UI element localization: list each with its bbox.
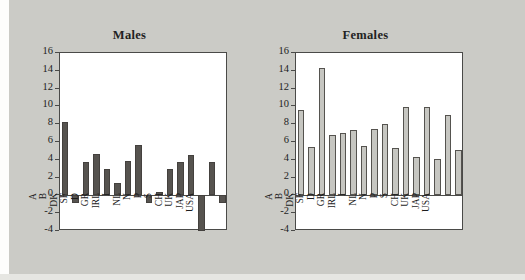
bar-s [413,157,420,195]
bar-i [371,129,378,196]
bar-sf [93,154,100,196]
x-tick-label-text: B [274,193,284,233]
x-tick-label-text: CH [154,193,164,233]
x-tick-label-text: SF [59,193,69,233]
bar-n [392,148,399,195]
bar-gr [350,130,357,196]
x-tick-label-text: S [379,193,389,233]
y-tick-label: 14 [279,63,290,74]
chart-title-males: Males [22,28,237,43]
bar-ch [188,155,195,195]
x-tick-label-text: CH [390,193,400,233]
y-tick-label: 12 [43,81,54,92]
bar-i [135,145,142,196]
bar-d [104,169,111,196]
bar-uk [198,195,205,231]
bar-nl [382,124,389,195]
x-tick-label-text: DK [285,193,295,233]
bar-p [167,169,174,196]
bar-usa [455,150,462,195]
y-tick-label: 6 [48,134,53,145]
bar-b [308,147,315,195]
y-tick-label: 14 [43,63,54,74]
x-tick-label-text: NL [348,193,358,233]
bar-irl [361,146,368,196]
y-tick-label: 10 [43,98,54,109]
x-tick-label-text: I [101,193,111,233]
x-tick-label-text: JAP [175,193,185,233]
bar-dk [319,68,326,195]
x-tick-label-text: N [358,193,368,233]
page-left-margin [0,0,9,280]
x-axis-labels-males: ABDKSFDGRIRLINLNPSCHUKJAPUSA [59,231,227,277]
x-axis-labels-females: ABDKSFDGRIRLINLNPSCHUKJAPUSA [295,231,463,277]
y-tick-label: 4 [284,152,289,163]
chart-panel-females: Females 1614121086420-2-4 ABDKSFDGRIRLIN… [258,0,493,280]
x-tick-label-text: GR [316,193,326,233]
bar-d [340,133,347,195]
x-tick-label-text: SF [295,193,305,233]
bar-a [298,110,305,195]
bar-ch [424,107,431,195]
bar-irl [125,161,132,196]
bar-s [177,162,184,195]
x-tick-label-text: DK [49,193,59,233]
x-tick-label-text: A [28,193,38,233]
bar-sf [329,135,336,196]
y-tick-label: 2 [48,170,53,181]
y-tick-label: 2 [284,170,289,181]
x-tick-label-text: IRL [327,193,337,233]
x-tick-label-text: UK [164,193,174,233]
x-tick-label-text: D [70,193,80,233]
x-tick-label-text: JAP [411,193,421,233]
figure-page: Males 1614121086420-2-4 ABDKSFDGRIRLINLN… [0,0,525,280]
bar-uk [434,159,441,195]
y-tick-label: 16 [43,45,54,56]
y-tick-label: 16 [279,45,290,56]
x-tick-label-text: S [143,193,153,233]
y-tick-label: 6 [284,134,289,145]
x-tick-label-text: NL [112,193,122,233]
y-tick-label: 8 [284,116,289,127]
x-tick-label-text: A [264,193,274,233]
bar-jap [445,115,452,195]
x-tick-label-text: USA [185,193,195,233]
x-tick-label-text: P [133,193,143,233]
bar-dk [83,162,90,195]
bar-usa [219,195,226,202]
x-tick-label-text: USA [421,193,431,233]
chart-panel-males: Males 1614121086420-2-4 ABDKSFDGRIRLINLN… [22,0,257,280]
bar-jap [209,162,216,196]
chart-title-females: Females [258,28,473,43]
y-tick-label: 4 [48,152,53,163]
bar-a [62,122,69,195]
x-tick-label-text: GR [80,193,90,233]
bar-p [403,107,410,195]
x-tick-label-text: D [306,193,316,233]
x-tick-label-text: P [369,193,379,233]
y-tick-label: 10 [279,98,290,109]
x-tick-label-text: IRL [91,193,101,233]
x-tick-label-text: N [122,193,132,233]
y-tick-label: 12 [279,81,290,92]
x-tick-label-text: I [337,193,347,233]
y-tick-label: 8 [48,116,53,127]
x-tick-label-text: UK [400,193,410,233]
x-tick-label-text: B [38,193,48,233]
